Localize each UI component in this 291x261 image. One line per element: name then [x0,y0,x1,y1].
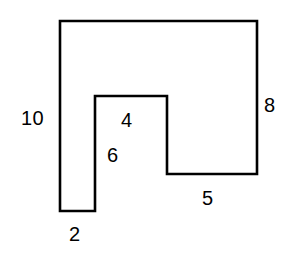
dimension-label-inner-left: 6 [107,145,119,165]
dimension-label-right-side: 8 [264,95,276,115]
dimension-label-bottom-right: 5 [202,188,214,208]
dimension-label-left-side: 10 [21,108,44,128]
figure-canvas: 10 8 4 6 5 2 [0,0,291,261]
dimension-label-inner-top: 4 [121,110,133,130]
notched-rectangle-shape [0,0,291,261]
dimension-label-bottom-left: 2 [69,224,81,244]
polygon-outline [60,21,257,211]
